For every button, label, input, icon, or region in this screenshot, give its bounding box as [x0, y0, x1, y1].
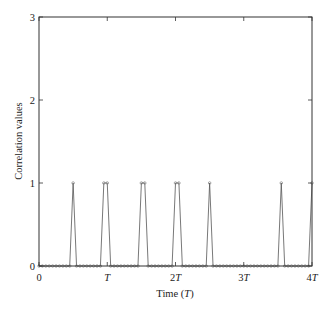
y-tick-label: 3 — [30, 12, 35, 23]
x-tick-label: T — [104, 272, 111, 283]
plot-area — [38, 182, 314, 268]
x-tick-labels: 0T2T3T4T — [36, 272, 318, 283]
y-tick-label: 2 — [30, 95, 35, 106]
y-tick-labels: 0123 — [30, 12, 35, 272]
series-line — [39, 183, 312, 266]
x-tick-label: 0 — [36, 272, 41, 283]
y-tick-label: 1 — [30, 178, 35, 189]
axes-frame — [39, 17, 312, 266]
x-tick-label: 2T — [170, 272, 182, 283]
x-tick-label: 4T — [306, 272, 318, 283]
y-tick-label: 0 — [30, 261, 35, 272]
x-axis-label: Time (T) — [156, 288, 194, 300]
x-tick-label: 3T — [238, 272, 250, 283]
axis-ticks — [39, 17, 312, 266]
correlation-chart: 0T2T3T4T 0123 Time (T) Correlation value… — [0, 0, 329, 311]
y-axis-label: Correlation values — [13, 102, 24, 179]
